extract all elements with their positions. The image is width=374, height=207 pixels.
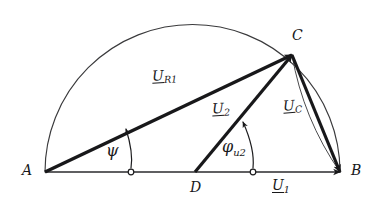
vertex-label-a: A <box>22 163 32 177</box>
phasor-label-ur1-base: U <box>152 68 165 84</box>
angle-label-phi-sub-text: u2 <box>233 147 246 158</box>
phasor-label-u1-sub: 1 <box>284 184 290 195</box>
angle-label-phi-symbol: φ <box>222 137 233 156</box>
phasor-diagram-figure: A B C D UR1 U2 UC U1 ψ φu2 <box>0 0 374 207</box>
phasor-label-uc: UC <box>283 97 303 113</box>
vertex-label-d: D <box>190 180 201 194</box>
phasor-label-ur1: UR1 <box>152 67 178 83</box>
angle-label-phi-sub: u2 <box>233 147 246 158</box>
phasor-diagram-canvas <box>0 0 374 207</box>
angle-pivot-psi-icon <box>128 169 134 175</box>
angle-label-psi-symbol: ψ <box>106 141 119 160</box>
phasor-label-u1-base: U <box>272 178 284 193</box>
phasor-label-u2-sub: 2 <box>224 107 231 118</box>
phasor-label-ur1-sub: R1 <box>164 73 178 85</box>
phasor-label-uc-sub: C <box>295 103 303 114</box>
phasor-label-uc-base: U <box>283 98 296 114</box>
phasor-label-u2: U2 <box>212 101 231 117</box>
angle-label-phi-u2: φu2 <box>222 139 246 155</box>
phasor-label-u1: U1 <box>272 178 290 193</box>
angle-pivot-phi-u2-icon <box>250 169 256 175</box>
vertex-label-b: B <box>351 163 361 177</box>
phasor-label-u2-base: U <box>212 101 225 117</box>
vertex-label-c: C <box>292 28 303 42</box>
angle-label-psi: ψ <box>106 143 119 159</box>
